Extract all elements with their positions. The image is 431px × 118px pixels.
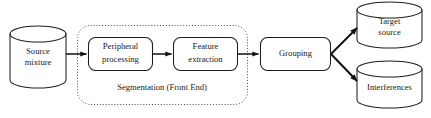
source-mixture-label-line2: mixture <box>25 57 52 67</box>
edge-grouping-to-target <box>331 28 357 54</box>
node-feature-extraction[interactable]: Feature extraction <box>174 38 238 71</box>
interferences-cylinder-top <box>357 61 422 77</box>
node-interferences[interactable]: Interferences <box>357 61 422 108</box>
flow-diagram: Segmentation (Front End) Source mixture … <box>0 0 431 118</box>
grouping-label: Grouping <box>279 48 313 58</box>
node-target-source[interactable]: Target source <box>357 2 422 48</box>
peripheral-processing-label-line1: Peripheral <box>103 41 139 51</box>
peripheral-processing-label-line2: processing <box>102 54 139 64</box>
diagram-canvas: Segmentation (Front End) Source mixture … <box>0 0 431 118</box>
source-mixture-label-line1: Source <box>26 46 50 56</box>
node-grouping[interactable]: Grouping <box>261 38 331 71</box>
interferences-label: Interferences <box>367 82 413 92</box>
source-mixture-cylinder-top <box>10 26 66 42</box>
node-source-mixture[interactable]: Source mixture <box>10 26 66 88</box>
target-source-label-line2: source <box>378 27 401 37</box>
feature-extraction-label-line2: extraction <box>188 54 223 64</box>
target-source-label-line1: Target <box>379 16 401 26</box>
edge-grouping-to-interferences <box>331 54 357 81</box>
node-peripheral-processing[interactable]: Peripheral processing <box>89 38 153 71</box>
feature-extraction-label-line1: Feature <box>193 41 219 51</box>
segmentation-region-label: Segmentation (Front End) <box>117 82 207 92</box>
